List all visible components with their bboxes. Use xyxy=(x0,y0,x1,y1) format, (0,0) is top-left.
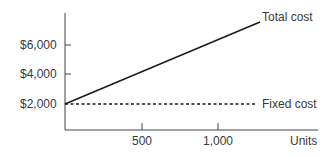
fixed-cost-label: Fixed cost xyxy=(262,97,317,111)
x-tick-label-500: 500 xyxy=(132,134,152,148)
x-axis-label: Units xyxy=(290,134,317,148)
y-tick-label-2000: $2,000 xyxy=(20,97,57,111)
y-tick-label-6000: $6,000 xyxy=(20,38,57,52)
total-cost-line xyxy=(65,22,260,104)
total-cost-label: Total cost xyxy=(262,10,313,24)
x-tick-label-1000: 1,000 xyxy=(203,134,233,148)
y-tick-label-4000: $4,000 xyxy=(20,67,57,81)
